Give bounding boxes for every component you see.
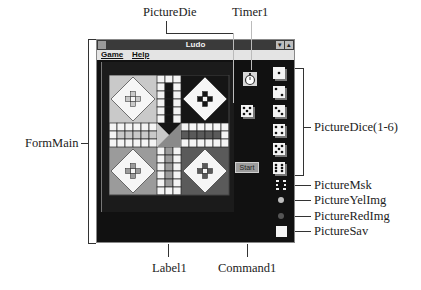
- bracket-line: [88, 243, 96, 244]
- menu-game[interactable]: Game: [101, 50, 123, 60]
- picture-dice-5: [273, 143, 288, 158]
- picture-dice-6: [273, 162, 288, 177]
- callout-timer1: Timer1: [232, 5, 268, 19]
- bracket-line: [295, 68, 303, 69]
- picture-dice-4: [273, 124, 288, 139]
- picture-dice-2: [273, 86, 288, 101]
- menu-bar: Game Help: [97, 50, 294, 60]
- picture-die[interactable]: [241, 105, 257, 121]
- leader-line: [303, 127, 311, 128]
- minimize-button[interactable]: ▾: [276, 41, 284, 49]
- leader-line: [168, 244, 169, 257]
- bracket-line: [88, 39, 89, 244]
- leader-line: [166, 21, 167, 33]
- leader-line: [233, 33, 234, 103]
- picture-dice-1: [273, 67, 288, 82]
- bracket-line: [88, 39, 96, 40]
- callout-formmain: FormMain: [25, 136, 78, 150]
- callout-picturesav: PictureSav: [314, 224, 368, 238]
- callout-label1: Label1: [152, 261, 187, 275]
- picture-save-box: [276, 226, 287, 237]
- bracket-line: [303, 68, 304, 176]
- timer-stopwatch-icon: [243, 72, 257, 86]
- callout-pictureyelimg: PictureYelImg: [314, 193, 386, 207]
- leader-line: [247, 244, 248, 257]
- leader-line: [251, 21, 252, 70]
- callout-command1: Command1: [218, 261, 276, 275]
- callout-picturemsk: PictureMsk: [314, 178, 372, 192]
- menu-help[interactable]: Help: [132, 50, 149, 60]
- leader-line: [81, 143, 88, 144]
- picture-mask-icon: [276, 180, 286, 190]
- callout-picturedie: PictureDie: [143, 5, 196, 19]
- picture-dice-3: [273, 105, 288, 120]
- maximize-button[interactable]: ▴: [285, 41, 293, 49]
- ludo-board[interactable]: [109, 75, 230, 196]
- start-command-button[interactable]: Start: [235, 162, 259, 173]
- red-token-image: [277, 212, 285, 220]
- form-main-window: Ludo ▾ ▴ Game Help Start: [96, 39, 295, 243]
- annotated-screenshot: PictureDie Timer1 PictureDice(1-6) FormM…: [0, 0, 421, 290]
- yellow-token-image: [277, 196, 285, 204]
- window-title: Ludo: [97, 39, 294, 50]
- callout-picturedice: PictureDice(1-6): [314, 120, 398, 134]
- callout-pictureredimg: PictureRedImg: [314, 209, 390, 223]
- title-bar[interactable]: Ludo ▾ ▴: [97, 40, 294, 50]
- leader-line: [166, 33, 234, 34]
- bracket-line: [295, 175, 303, 176]
